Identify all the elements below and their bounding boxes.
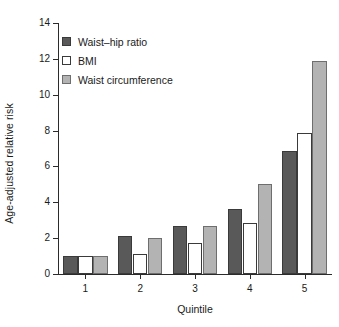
bar xyxy=(118,236,133,274)
x-axis-tick-label: 1 xyxy=(65,283,105,295)
legend-item-label: Waist circumference xyxy=(78,74,173,86)
bar xyxy=(243,223,258,274)
chart-legend: Waist–hip ratio BMI Waist circumference xyxy=(62,32,212,89)
x-axis-tick xyxy=(250,275,251,279)
legend-item: Waist circumference xyxy=(62,70,212,89)
y-axis-tick-label: 14 xyxy=(6,18,50,28)
legend-item-label: Waist–hip ratio xyxy=(78,36,147,48)
bar xyxy=(282,151,297,274)
bar xyxy=(93,256,108,274)
y-axis-tick xyxy=(53,274,58,275)
y-axis-tick-label: 4 xyxy=(6,197,50,207)
x-axis-tick-label: 3 xyxy=(175,283,215,295)
x-axis-tick xyxy=(195,275,196,279)
bar xyxy=(228,209,243,274)
bar xyxy=(312,61,327,274)
x-axis-label: Quintile xyxy=(58,303,332,315)
y-axis-tick-label: 0 xyxy=(6,269,50,279)
legend-item-label: BMI xyxy=(78,55,97,67)
x-axis-tick xyxy=(140,275,141,279)
bar xyxy=(173,226,188,274)
bar xyxy=(188,243,203,274)
x-axis-tick-label: 2 xyxy=(120,283,160,295)
y-axis-tick-label: 10 xyxy=(6,90,50,100)
x-axis-tick-label: 4 xyxy=(230,283,270,295)
legend-swatch-icon xyxy=(62,75,71,84)
x-axis-tick-label: 5 xyxy=(285,283,325,295)
legend-item: BMI xyxy=(62,51,212,70)
legend-swatch-icon xyxy=(62,56,71,65)
x-axis-tick xyxy=(305,275,306,279)
bar xyxy=(63,256,78,274)
bar xyxy=(258,184,273,274)
bar xyxy=(133,254,148,274)
bar xyxy=(203,226,218,274)
y-axis-tick-label: 8 xyxy=(6,126,50,136)
bar xyxy=(78,256,93,274)
legend-item: Waist–hip ratio xyxy=(62,32,212,51)
bar xyxy=(148,238,163,274)
y-axis-tick-label: 6 xyxy=(6,161,50,171)
bar xyxy=(297,133,312,274)
legend-swatch-icon xyxy=(62,37,71,46)
y-axis-tick-label: 12 xyxy=(6,54,50,64)
y-axis-tick-label: 2 xyxy=(6,233,50,243)
bar-chart-figure: Age-adjusted relative risk 02468101214 1… xyxy=(0,0,339,327)
x-axis-tick xyxy=(85,275,86,279)
